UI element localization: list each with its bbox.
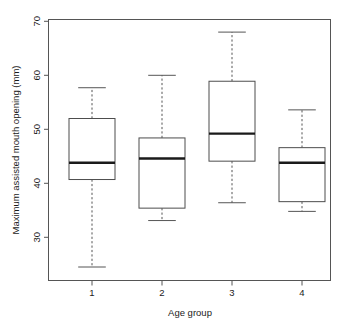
box-2 xyxy=(139,138,185,208)
y-axis-ticks xyxy=(44,21,49,237)
y-tick-label-60: 60 xyxy=(32,70,43,81)
x-tick-label-4: 4 xyxy=(299,287,304,298)
y-axis-title: Maximum assisted mouth opening (mm) xyxy=(10,66,21,235)
x-tick-label-1: 1 xyxy=(89,287,94,298)
y-axis-tick-labels: 70 60 50 40 30 xyxy=(32,16,43,243)
y-tick-label-40: 40 xyxy=(32,178,43,189)
box-group-1 xyxy=(69,88,115,267)
x-tick-label-2: 2 xyxy=(159,287,164,298)
boxplot-figure: 70 60 50 40 30 Maximum assisted mouth op… xyxy=(0,0,347,324)
y-tick-label-30: 30 xyxy=(32,232,43,243)
box-group-4 xyxy=(279,110,325,212)
boxplot-svg: 70 60 50 40 30 Maximum assisted mouth op… xyxy=(0,0,347,324)
box-3 xyxy=(209,81,255,161)
box-4 xyxy=(279,148,325,202)
y-tick-label-70: 70 xyxy=(32,16,43,27)
box-1 xyxy=(69,119,115,180)
x-axis-title: Age group xyxy=(168,307,212,318)
x-tick-label-3: 3 xyxy=(229,287,234,298)
box-group-2 xyxy=(139,75,185,220)
x-axis-ticks xyxy=(92,281,302,286)
x-axis-tick-labels: 1 2 3 4 xyxy=(89,287,304,298)
box-plot-series xyxy=(69,32,325,267)
y-tick-label-50: 50 xyxy=(32,124,43,135)
box-group-3 xyxy=(209,32,255,203)
